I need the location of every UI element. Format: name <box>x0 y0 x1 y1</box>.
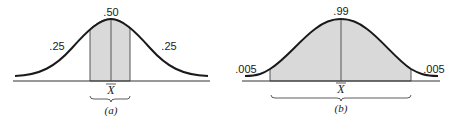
panel-caption: (a) <box>105 104 118 117</box>
panel-caption: (b) <box>335 102 348 115</box>
right-tail-label: .25 <box>161 40 176 52</box>
xbar-label: X <box>106 83 115 97</box>
panel-a: .50 .25 .25 X (a) <box>13 6 210 117</box>
left-tail-label: .005 <box>235 63 256 75</box>
left-tail-label: .25 <box>49 40 64 52</box>
right-tail-label: .005 <box>423 63 444 75</box>
xbar-label: X <box>336 82 345 96</box>
center-area-label: .99 <box>333 5 348 17</box>
figure: .50 .25 .25 X (a) .99 .005 .005 X (b) <box>0 0 457 129</box>
shaded-center-region <box>90 19 130 81</box>
panel-b: .99 .005 .005 X (b) <box>235 5 444 115</box>
center-area-label: .50 <box>103 6 118 18</box>
